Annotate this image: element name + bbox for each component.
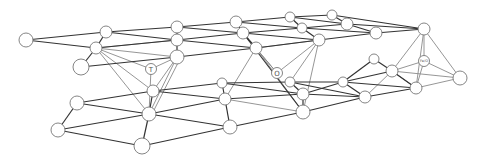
node [51,123,65,137]
node [359,91,371,103]
node [338,77,348,87]
node [70,96,84,110]
lattice-diagram: T O Fe/O [0,0,484,162]
node-right: Fe/O [419,56,430,67]
node [418,23,430,35]
node [296,105,310,119]
node [217,78,227,88]
node [219,93,231,105]
node [171,34,183,46]
node [369,54,379,64]
node [237,27,249,39]
node-T-label: T [148,66,154,74]
node-right-label: Fe/O [420,59,428,63]
node-O: O [272,68,283,79]
node [341,18,353,30]
node [90,42,102,54]
node [327,10,337,20]
node [453,71,467,85]
node [170,50,184,64]
node [313,34,325,46]
node [285,12,295,22]
node [171,21,183,33]
node [19,33,33,47]
node-O-label: O [274,70,280,78]
node [297,88,309,100]
node [73,59,89,75]
node [386,65,398,77]
node [147,85,159,97]
node [223,120,237,134]
node-T: T [146,64,157,75]
node [250,42,262,54]
node [230,16,242,28]
node [410,82,422,94]
node [285,77,295,87]
node [142,107,156,121]
node [370,27,382,39]
node [297,23,307,33]
node [134,138,150,154]
node [100,26,112,38]
